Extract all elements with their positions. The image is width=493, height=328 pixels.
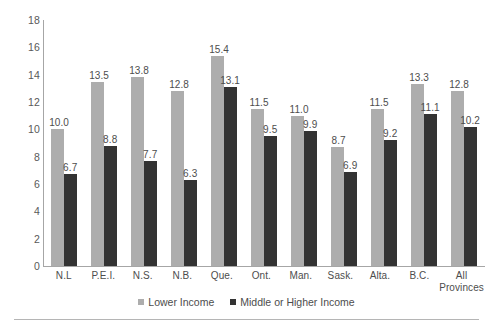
- y-axis-tick-labels: 024681012141618: [0, 0, 40, 328]
- bar-value-label: 11.5: [249, 97, 268, 108]
- bottom-divider: [14, 319, 479, 320]
- bar-value-label: 12.8: [169, 79, 189, 90]
- bar-wrapper: 6.3: [184, 180, 197, 266]
- x-axis-label-sask: Sask.: [321, 270, 361, 294]
- x-axis-label-n-l: N.L: [44, 270, 84, 294]
- x-axis-label-n-s: N.S.: [123, 270, 163, 294]
- x-axis-label-man: Man.: [281, 270, 321, 294]
- bar-wrapper: 7.7: [144, 161, 157, 266]
- x-axis-label-que: Que.: [202, 270, 242, 294]
- bar-value-label: 9.2: [383, 128, 397, 139]
- bar-higher-income[interactable]: [304, 131, 317, 266]
- y-axis-tick-4: 4: [4, 205, 40, 217]
- bar-value-label: 12.8: [449, 79, 469, 90]
- bar-higher-income[interactable]: [464, 127, 477, 266]
- y-axis-tick-14: 14: [4, 69, 40, 81]
- bar-lower-income[interactable]: [211, 56, 224, 266]
- bar-value-label: 11.0: [289, 104, 308, 115]
- bar-value-label: 13.1: [220, 75, 240, 86]
- bar-wrapper: 9.2: [384, 140, 397, 266]
- bar-wrapper: 10.2: [464, 127, 477, 266]
- bar-lower-income[interactable]: [251, 109, 264, 266]
- y-axis-tick-2: 2: [4, 233, 40, 245]
- bar-wrapper: 15.4: [211, 56, 224, 266]
- legend-item-lower-income[interactable]: Lower Income: [138, 296, 214, 308]
- bar-group-n-l: 10.06.7: [44, 20, 84, 266]
- bar-wrapper: 11.5: [251, 109, 264, 266]
- legend-label: Lower Income: [148, 296, 214, 308]
- y-axis-tick-6: 6: [4, 178, 40, 190]
- bar-wrapper: 9.5: [264, 136, 277, 266]
- x-axis-label-alta: Alta.: [360, 270, 400, 294]
- x-axis-label-p-e-i: P.E.I.: [84, 270, 124, 294]
- bar-group-que: 15.413.1: [204, 20, 244, 266]
- legend-swatch-icon: [230, 299, 236, 305]
- bar-lower-income[interactable]: [131, 77, 144, 266]
- bar-wrapper: 11.5: [371, 109, 384, 266]
- bar-higher-income[interactable]: [184, 180, 197, 266]
- bar-wrapper: 13.1: [224, 87, 237, 266]
- bar-value-label: 9.9: [303, 119, 317, 130]
- bar-higher-income[interactable]: [64, 174, 77, 266]
- x-axis-label-b-c: B.C.: [400, 270, 440, 294]
- bar-lower-income[interactable]: [51, 129, 64, 266]
- bar-group-sask: 8.76.9: [324, 20, 364, 266]
- x-axis-label-n-b: N.B.: [163, 270, 203, 294]
- bar-value-label: 7.7: [143, 149, 157, 160]
- bar-wrapper: 8.7: [331, 147, 344, 266]
- bar-group-p-e-i: 13.58.8: [84, 20, 124, 266]
- chart-legend: Lower IncomeMiddle or Higher Income: [0, 296, 493, 308]
- bar-wrapper: 11.0: [291, 116, 304, 266]
- bar-group-n-s: 13.87.7: [124, 20, 164, 266]
- y-axis-tick-18: 18: [4, 14, 40, 26]
- bar-value-label: 13.5: [89, 70, 109, 81]
- bar-wrapper: 6.7: [64, 174, 77, 266]
- bar-higher-income[interactable]: [104, 146, 117, 266]
- bar-lower-income[interactable]: [331, 147, 344, 266]
- legend-label: Middle or Higher Income: [240, 296, 354, 308]
- bar-value-label: 13.3: [409, 72, 429, 83]
- bar-wrapper: 11.1: [424, 114, 437, 266]
- y-axis-tick-8: 8: [4, 151, 40, 163]
- x-axis-label-all-provinces: AllProvinces: [439, 270, 484, 294]
- legend-item-middle-or-higher-income[interactable]: Middle or Higher Income: [230, 296, 354, 308]
- bar-value-label: 6.7: [63, 162, 77, 173]
- bar-value-label: 6.3: [183, 168, 197, 179]
- y-axis-tick-16: 16: [4, 41, 40, 53]
- bar-higher-income[interactable]: [264, 136, 277, 266]
- bar-higher-income[interactable]: [224, 87, 237, 266]
- plot-area: 10.06.713.58.813.87.712.86.315.413.111.5…: [44, 20, 484, 266]
- bar-value-label: 10.0: [49, 117, 69, 128]
- bar-wrapper: 10.0: [51, 129, 64, 266]
- bar-lower-income[interactable]: [291, 116, 304, 266]
- bar-group-ont: 11.59.5: [244, 20, 284, 266]
- bar-higher-income[interactable]: [144, 161, 157, 266]
- bar-value-label: 15.4: [209, 44, 229, 55]
- bar-chart: 024681012141618 10.06.713.58.813.87.712.…: [0, 0, 493, 328]
- bar-wrapper: 12.8: [171, 91, 184, 266]
- bar-wrapper: 13.8: [131, 77, 144, 266]
- bar-group-man: 11.09.9: [284, 20, 324, 266]
- bar-value-label: 6.9: [343, 160, 357, 171]
- bar-higher-income[interactable]: [344, 172, 357, 266]
- bar-lower-income[interactable]: [371, 109, 384, 266]
- bar-value-label: 8.8: [103, 134, 117, 145]
- bar-value-label: 11.1: [421, 102, 440, 113]
- bar-wrapper: 9.9: [304, 131, 317, 266]
- y-axis-tick-10: 10: [4, 123, 40, 135]
- y-axis-tick-12: 12: [4, 96, 40, 108]
- bar-value-label: 11.5: [369, 97, 388, 108]
- bar-lower-income[interactable]: [171, 91, 184, 266]
- bar-lower-income[interactable]: [91, 82, 104, 267]
- bar-value-label: 9.5: [263, 124, 277, 135]
- bar-higher-income[interactable]: [384, 140, 397, 266]
- bar-value-label: 13.8: [129, 65, 149, 76]
- bar-higher-income[interactable]: [424, 114, 437, 266]
- bar-group-alta: 11.59.2: [364, 20, 404, 266]
- bar-value-label: 8.7: [332, 135, 346, 146]
- x-axis-category-labels: N.LP.E.I.N.S.N.B.Que.Ont.Man.Sask.Alta.B…: [44, 270, 484, 294]
- bar-wrapper: 6.9: [344, 172, 357, 266]
- legend-swatch-icon: [138, 299, 144, 305]
- bar-group-b-c: 13.311.1: [404, 20, 444, 266]
- x-axis-line: [43, 266, 485, 267]
